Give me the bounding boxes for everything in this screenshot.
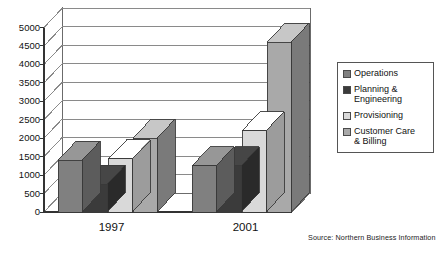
- x-axis-label-1997: 1997: [77, 222, 147, 234]
- legend-item: Operations: [343, 68, 429, 78]
- legend-item-label: Provisioning: [354, 110, 403, 120]
- source-note: Source: Northern Business Information: [308, 233, 436, 242]
- legend: OperationsPlanning & EngineeringProvisio…: [337, 62, 434, 153]
- legend-item-label: Planning & Engineering: [354, 84, 402, 104]
- legend-swatch-icon: [343, 70, 351, 78]
- legend-item: Provisioning: [343, 110, 429, 120]
- x-axis-label-2001: 2001: [211, 222, 281, 234]
- legend-item: Planning & Engineering: [343, 84, 429, 104]
- legend-item-label: Operations: [354, 68, 398, 78]
- legend-swatch-icon: [343, 86, 351, 94]
- legend-swatch-icon: [343, 128, 351, 136]
- bar-chart: 0500100015002000250030003500400045005000…: [0, 0, 439, 253]
- legend-swatch-icon: [343, 112, 351, 120]
- legend-item: Customer Care & Billing: [343, 126, 429, 146]
- legend-item-label: Customer Care & Billing: [354, 126, 415, 146]
